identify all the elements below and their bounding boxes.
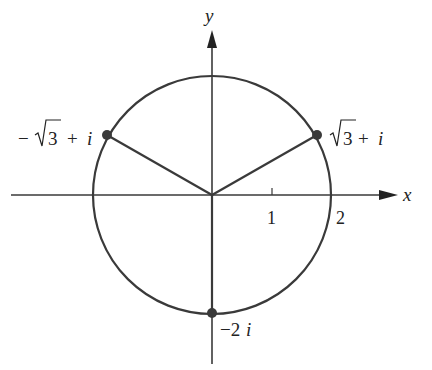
point-neg-2i (207, 308, 217, 318)
svg-text:−2: −2 (220, 319, 240, 340)
svg-text:+: + (67, 128, 78, 149)
radius-to-neg-sqrt3-plus-i (107, 135, 212, 195)
label-neg-2i: −2 i (220, 319, 251, 340)
y-axis-label: y (203, 5, 214, 26)
complex-plane-figure: x y 1 2 3 + i − 3 + i −2 i (0, 0, 432, 370)
radius-to-sqrt3-plus-i (212, 135, 317, 195)
x-tick-label-2: 2 (336, 208, 345, 228)
x-axis-arrow-icon (379, 190, 398, 200)
point-neg-sqrt3-plus-i (102, 130, 112, 140)
point-sqrt3-plus-i (312, 130, 322, 140)
x-axis-label: x (402, 184, 412, 205)
svg-text:i: i (87, 128, 92, 149)
svg-text:i: i (246, 319, 251, 340)
svg-text:3: 3 (48, 128, 58, 149)
x-tick-label-1: 1 (267, 208, 276, 228)
svg-text:+: + (358, 128, 369, 149)
label-neg-sqrt3-plus-i: − 3 + i (18, 120, 92, 149)
label-sqrt3-plus-i: 3 + i (330, 120, 383, 149)
svg-text:−: − (18, 128, 29, 149)
svg-text:3: 3 (343, 128, 353, 149)
diagram-canvas: x y 1 2 3 + i − 3 + i −2 i (0, 0, 432, 370)
y-axis-arrow-icon (207, 30, 217, 48)
svg-text:i: i (378, 128, 383, 149)
